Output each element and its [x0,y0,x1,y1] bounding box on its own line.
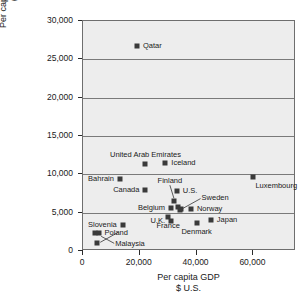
data-point-label: Canada [113,186,139,194]
data-point-marker [134,44,139,49]
data-point-marker [251,174,256,179]
y-tick-label: 25,000 [25,54,73,63]
data-point-label: United Arab Emirates [110,151,181,159]
data-point-label: Japan [217,216,237,224]
data-point-marker [194,220,199,225]
y-tick-label: 20,000 [25,93,73,102]
data-point-marker [169,219,174,224]
y-axis-title: Per capita energy consumption (kg oil eq… [0,0,20,46]
data-point-marker [117,176,122,181]
data-point-marker [163,160,168,165]
data-point-marker [208,218,213,223]
x-tick-mark [196,250,197,255]
data-point-marker [174,189,179,194]
y-tick-label: 0 [25,246,73,255]
gridline [83,98,294,99]
data-point-marker [95,241,100,246]
x-tick-mark [252,250,253,255]
data-point-label: Luxembourg [255,182,297,190]
plot-area: QatarIcelandUnited Arab EmiratesLuxembou… [82,20,295,250]
data-point-marker [143,162,148,167]
y-tick-mark [78,212,82,213]
y-tick-label: 10,000 [25,169,73,178]
x-tick-mark [139,250,140,255]
data-point-marker [169,206,174,211]
y-tick-label: 30,000 [25,16,73,25]
data-point-label: Poland [105,229,128,237]
y-tick-label: 15,000 [25,131,73,140]
y-tick-mark [78,20,82,21]
data-point-label: Belgium [138,204,165,212]
data-point-label: U.K. [150,217,165,225]
data-point-marker [96,230,101,235]
data-point-label: Norway [197,205,222,213]
data-point-label: Finland [158,177,183,185]
x-tick-label: 20,000 [126,258,152,267]
data-point-label: Iceland [171,159,195,167]
data-point-label: U.S. [183,187,198,195]
gridline [83,174,294,175]
data-point-label: Denmark [181,228,211,236]
data-point-label: Sweden [202,194,229,202]
data-point-label: Malaysia [115,240,145,248]
data-point-marker [177,207,182,212]
x-tick-mark [82,250,83,255]
x-tick-label: 40,000 [183,258,209,267]
y-tick-label: 5,000 [25,208,73,217]
x-tick-label: 60,000 [239,258,265,267]
gridline [83,59,294,60]
data-point-marker [188,206,193,211]
scatter-chart-figure: Per capita energy consumption (kg oil eq… [0,0,305,298]
x-tick-label: 0 [80,258,85,267]
y-tick-mark [78,135,82,136]
data-point-label: Bahrain [88,175,114,183]
gridline [83,136,294,137]
data-point-marker [143,187,148,192]
data-point-label: Qatar [143,42,162,50]
gridline [83,213,294,214]
y-tick-mark [78,58,82,59]
y-tick-mark [78,97,82,98]
x-axis-title: Per capita GDP $ U.S. [82,272,295,294]
y-tick-mark [78,173,82,174]
data-point-marker [171,199,176,204]
